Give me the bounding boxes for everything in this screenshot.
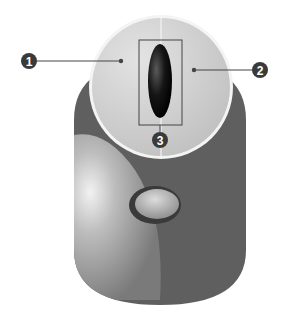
thumb-button [129,186,181,224]
callout-number-2: 2 [257,64,264,78]
callout-number-3: 3 [157,134,164,148]
scroll-wheel [148,44,172,118]
callout-number-1: 1 [26,55,33,69]
mouse-diagram: 1 2 3 [0,0,282,325]
